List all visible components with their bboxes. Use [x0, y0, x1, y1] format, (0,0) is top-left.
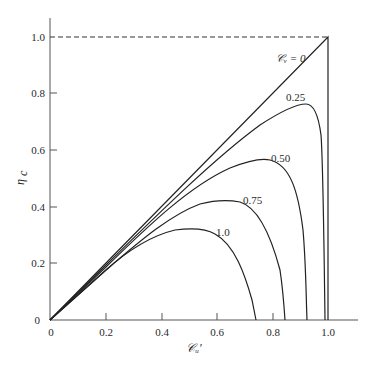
x-tick-label: 0.6	[210, 326, 224, 338]
y-tick-label: 0	[35, 314, 41, 326]
y-tick-label: 0.6	[31, 144, 45, 156]
x-tick-label: 0	[48, 326, 54, 338]
y-ticks	[50, 93, 57, 263]
svg-text:η: η	[13, 179, 27, 185]
x-tick-label: 0.4	[155, 326, 169, 338]
x-tick-label: 1.0	[321, 326, 335, 338]
y-tick-label: 0.4	[31, 201, 45, 213]
y-tick-label: 0.2	[31, 257, 45, 269]
curve-cv-0.25	[50, 104, 325, 320]
y-tick-label: 0.8	[31, 87, 45, 99]
label-cv-0.25: 0.25	[286, 91, 306, 103]
y-tick-label: 1.0	[31, 31, 45, 43]
y-axis-title: η c	[13, 170, 30, 185]
label-cv-0: 𝒞ᵥ = 0	[276, 52, 306, 64]
label-cv-0.75: 0.75	[243, 194, 263, 206]
efficiency-chart: 0 0.2 0.4 0.6 0.8 1.0 0 0.2 0.4 0.6 0.8 …	[0, 0, 372, 366]
x-tick-label: 0.8	[266, 326, 280, 338]
x-axis-title: 𝒞ᵤ'	[186, 341, 202, 355]
curve-cv-1.0	[50, 229, 256, 320]
label-cv-0.50: 0.50	[271, 152, 291, 164]
label-cv-1.0: 1.0	[216, 226, 230, 238]
x-ticks	[106, 313, 273, 320]
curve-cv-0	[50, 37, 328, 320]
curve-cv-0.75	[50, 201, 285, 320]
svg-text:c: c	[16, 170, 30, 176]
curve-cv-0.50	[50, 159, 307, 320]
x-tick-label: 0.2	[99, 326, 113, 338]
